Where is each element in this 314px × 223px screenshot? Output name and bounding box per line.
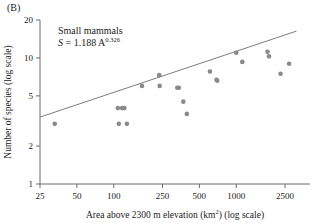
scatter-plot: 1251020 255010025050010002500 Small mamm…	[0, 0, 314, 223]
data-point	[116, 106, 121, 111]
data-point	[157, 73, 162, 78]
y-axis-title: Number of species (log scale)	[3, 45, 14, 158]
annotation-line1: Small mammals	[58, 25, 123, 36]
data-point	[208, 69, 213, 74]
data-point	[287, 61, 292, 66]
x-tick-label: 25	[36, 191, 46, 201]
x-tick-label: 500	[193, 191, 207, 201]
x-tick-label: 2500	[276, 191, 295, 201]
data-point	[185, 112, 190, 117]
x-axis-title: Area above 2300 m elevation (km2) (log s…	[86, 208, 264, 221]
data-point	[177, 85, 182, 90]
x-tick-label: 1000	[227, 191, 246, 201]
y-tick-label: 10	[24, 53, 34, 63]
x-axis-ticks: 255010025050010002500	[36, 184, 295, 201]
data-point	[181, 99, 186, 104]
x-axis-title-tail: ) (log scale)	[219, 210, 264, 221]
data-point	[215, 78, 220, 83]
data-point	[267, 54, 272, 59]
annotation-eq-body: = 1.188 A	[63, 37, 106, 48]
y-tick-label: 5	[29, 91, 34, 101]
data-point	[117, 122, 122, 127]
y-tick-label: 2	[29, 141, 34, 151]
data-point	[125, 122, 130, 127]
data-point	[265, 49, 270, 54]
data-point	[140, 84, 145, 89]
y-tick-label: 1	[29, 179, 34, 189]
data-point	[52, 122, 57, 127]
data-point	[240, 60, 245, 65]
y-tick-label: 20	[24, 15, 34, 25]
data-point	[157, 84, 162, 89]
x-tick-label: 100	[107, 191, 121, 201]
figure-panel-b: (B) 1251020 255010025050010002500 Small …	[0, 0, 314, 223]
data-point	[234, 50, 239, 55]
data-points	[52, 49, 291, 126]
data-point	[122, 106, 127, 111]
x-axis-title-main: Area above 2300 m elevation (km	[86, 210, 216, 221]
y-axis-ticks: 1251020	[24, 15, 40, 189]
annotation-equation: S = 1.188 A0.326	[58, 36, 121, 48]
x-tick-label: 50	[72, 191, 82, 201]
x-tick-label: 250	[156, 191, 170, 201]
data-point	[278, 71, 283, 76]
annotation-eq-exponent: 0.326	[105, 36, 120, 43]
